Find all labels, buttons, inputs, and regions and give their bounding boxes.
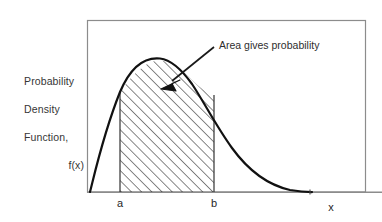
y-axis-label-line-1: Probability: [24, 75, 74, 87]
figure-container: Probability Density Function, f(x) Area …: [0, 0, 382, 222]
x-axis-label: x: [323, 201, 339, 214]
y-axis-label-line-3: Function,: [24, 131, 68, 143]
tick-label-a: a: [112, 197, 128, 210]
y-axis-label-line-2: Density: [24, 103, 60, 115]
shaded-area-region: [115, 55, 220, 195]
y-axis-label: Probability Density Function, f(x): [12, 60, 84, 200]
annotation-leader-line: [172, 47, 214, 81]
y-axis-label-line-4: f(x): [12, 158, 84, 172]
tick-label-b: b: [206, 197, 222, 210]
area-annotation-label: Area gives probability: [219, 39, 319, 52]
